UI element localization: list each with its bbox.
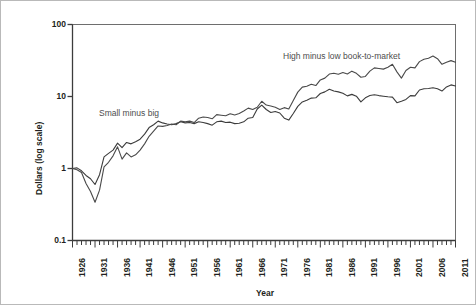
x-tick-label: 2006 xyxy=(437,258,447,277)
x-tick-label: 1991 xyxy=(369,258,379,277)
x-tick-label: 1941 xyxy=(144,258,154,277)
x-tick-label: 1976 xyxy=(302,258,312,277)
x-tick-label: 1961 xyxy=(234,258,244,277)
x-tick-label: 2011 xyxy=(460,259,470,277)
x-tick-label: 1981 xyxy=(324,258,334,277)
x-tick-label: 1986 xyxy=(347,258,357,277)
x-tick-label: 1966 xyxy=(257,258,267,277)
y-tick-label: 10 xyxy=(20,91,66,101)
x-tick-label: 1956 xyxy=(212,258,222,277)
x-tick-label: 1971 xyxy=(279,258,289,277)
series-line-high-minus-low xyxy=(73,56,456,202)
figure-container: Dollars (log scale) Year Small minus big… xyxy=(0,0,476,305)
x-tick-label: 1951 xyxy=(189,258,199,277)
y-tick-label: 100 xyxy=(20,19,66,29)
x-tick-label: 1926 xyxy=(77,258,87,277)
x-tick-label: 2001 xyxy=(414,258,424,277)
y-tick-label: 0.1 xyxy=(20,235,66,245)
series-line-small-minus-big xyxy=(73,85,456,185)
x-tick-label: 1936 xyxy=(122,258,132,277)
y-tick-label: 1 xyxy=(20,163,66,173)
x-tick-label: 1931 xyxy=(99,258,109,277)
plot-frame xyxy=(73,25,456,241)
x-tick-label: 1996 xyxy=(392,258,402,277)
x-tick-label: 1946 xyxy=(167,258,177,277)
